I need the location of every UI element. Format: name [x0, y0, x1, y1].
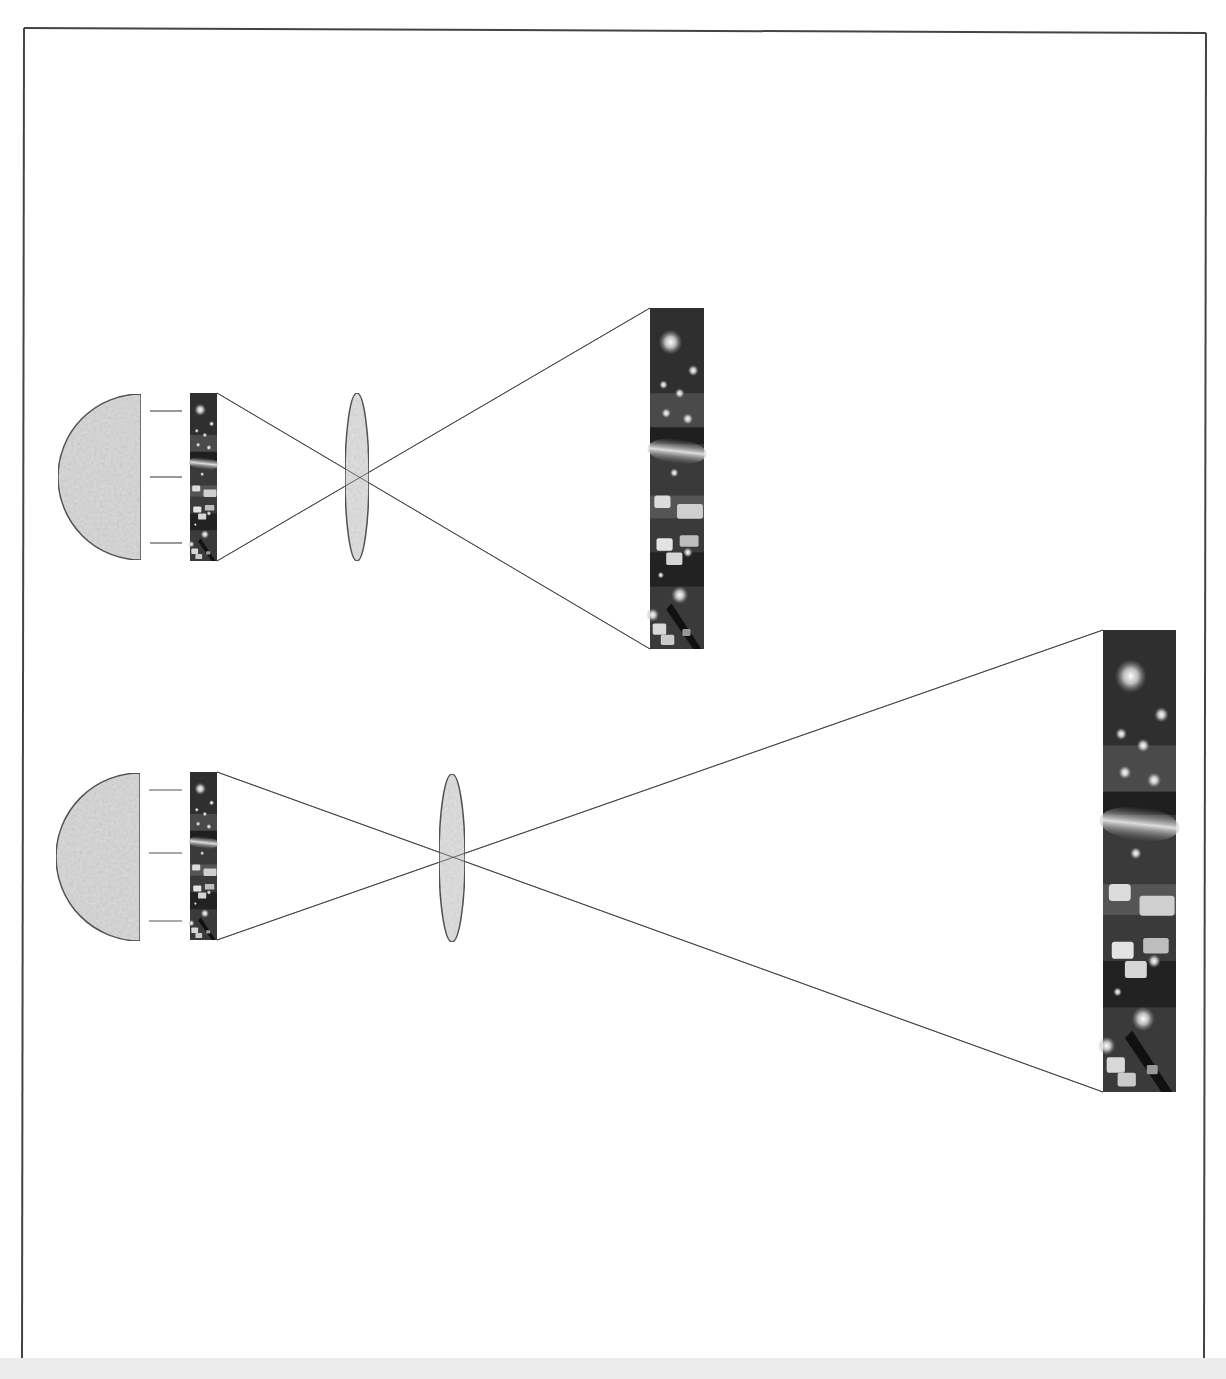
ray-through-lens-a: [217, 393, 650, 649]
slide-film: [188, 772, 219, 940]
light-source: [58, 394, 141, 560]
figure-frame: [22, 28, 1206, 1368]
ray-through-lens-b: [217, 308, 650, 561]
light-source: [56, 773, 140, 941]
projected-image: [646, 308, 708, 649]
scan-bottom-band: [0, 1358, 1226, 1379]
lens: [345, 393, 369, 561]
diagram-canvas: [0, 0, 1226, 1379]
optical-projection-diagram: [0, 0, 1226, 1379]
light-rays-marks: [149, 790, 182, 921]
upper-projection: [58, 308, 708, 649]
slide-film: [188, 393, 219, 561]
lower-projection: [56, 630, 1181, 1092]
ray-through-lens-b: [217, 630, 1103, 940]
ray-through-lens-a: [217, 772, 1103, 1092]
light-rays-marks: [150, 411, 182, 543]
projected-image: [1098, 630, 1181, 1092]
